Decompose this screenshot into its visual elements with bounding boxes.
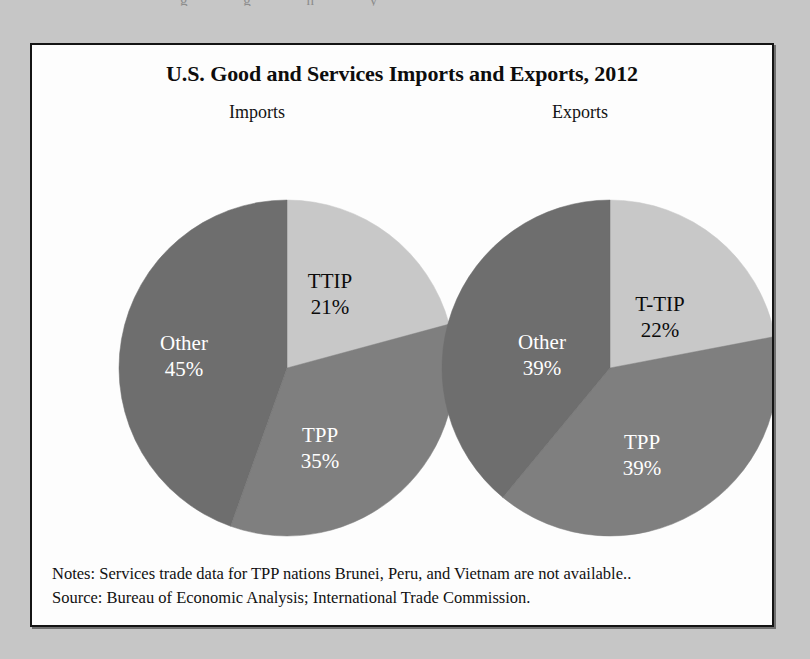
figure-frame: U.S. Good and Services Imports and Expor… — [30, 43, 774, 627]
figure-notes: Notes: Services trade data for TPP natio… — [52, 562, 752, 609]
scan-artifact: g g n y — [0, 0, 810, 6]
pie-chart-imports: TTIP21%TPP35%Other45% — [119, 200, 455, 536]
pie-chart-exports: T-TIP22%TPP39%Other39% — [442, 200, 772, 536]
notes-line: Notes: Services trade data for TPP natio… — [52, 562, 752, 585]
pie-charts-area: TTIP21%TPP35%Other45% T-TIP22%TPP39%Othe… — [32, 45, 772, 625]
source-line: Source: Bureau of Economic Analysis; Int… — [52, 586, 752, 609]
